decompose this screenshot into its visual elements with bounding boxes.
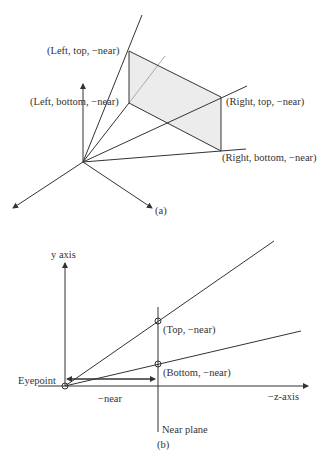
top-ray xyxy=(65,241,274,386)
label-left-bottom: (Left, bottom, −near) xyxy=(30,97,119,108)
distance-label: −near xyxy=(98,394,122,405)
bottom-label: (Bottom, −near) xyxy=(163,368,231,379)
top-label: (Top, −near) xyxy=(163,325,215,336)
axis-down-left xyxy=(13,162,83,208)
edge-left-bottom xyxy=(83,103,129,162)
y-axis-label: y axis xyxy=(51,250,76,261)
caption-a: (a) xyxy=(155,206,167,217)
near-plane-label: Near plane xyxy=(162,425,208,436)
label-right-bottom: (Right, bottom, −near) xyxy=(222,153,317,164)
axis-down-right xyxy=(83,162,152,208)
z-axis-label: −z-axis xyxy=(268,392,299,403)
frustum-figure xyxy=(13,15,247,208)
label-right-top: (Right, top, −near) xyxy=(226,97,304,108)
near-plane-face xyxy=(129,51,221,151)
eyepoint-label: Eyepoint xyxy=(18,376,56,387)
caption-b: (b) xyxy=(157,440,169,451)
label-left-top: (Left, top, −near) xyxy=(47,46,119,57)
side-view-figure xyxy=(38,241,308,432)
